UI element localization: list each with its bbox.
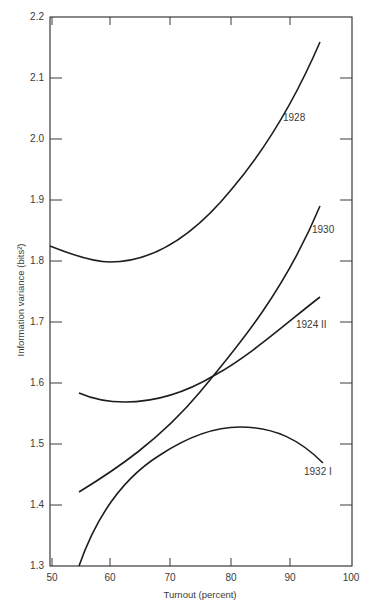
y-tick-1.5: 1.5 <box>30 438 44 449</box>
series-1932-i-line <box>79 427 323 566</box>
y-tick-1.7: 1.7 <box>30 316 44 327</box>
y-axis-title: Information variance (bits²) <box>15 244 26 357</box>
series-label-1932-i: 1932 I <box>304 466 332 477</box>
x-tick-labels: 50 60 70 80 90 100 <box>46 572 359 583</box>
x-tick-70: 70 <box>164 572 176 583</box>
y-tick-1.3: 1.3 <box>30 560 44 571</box>
y-tick-1.4: 1.4 <box>30 499 44 510</box>
x-tick-90: 90 <box>284 572 296 583</box>
y-axis-ticks <box>50 78 352 505</box>
y-tick-1.9: 1.9 <box>30 194 44 205</box>
y-tick-1.6: 1.6 <box>30 377 44 388</box>
line-chart: 1.3 1.4 1.5 1.6 1.7 1.8 1.9 2.0 2.1 2.2 … <box>0 0 373 610</box>
series-label-1924-ii: 1924 II <box>296 319 327 330</box>
y-tick-1.8: 1.8 <box>30 255 44 266</box>
x-tick-50: 50 <box>46 572 58 583</box>
series-label-1930: 1930 <box>312 224 335 235</box>
series-1930-line <box>79 206 320 492</box>
x-tick-80: 80 <box>225 572 237 583</box>
y-tick-2.0: 2.0 <box>30 133 44 144</box>
series-label-1928: 1928 <box>283 112 306 123</box>
y-tick-2.1: 2.1 <box>30 72 44 83</box>
series-1928-line <box>50 42 320 262</box>
x-tick-60: 60 <box>104 572 116 583</box>
plot-frame <box>50 17 352 566</box>
x-tick-100: 100 <box>343 572 360 583</box>
x-axis-ticks <box>52 17 290 566</box>
x-axis-title: Turnout (percent) <box>163 589 236 600</box>
y-tick-labels: 1.3 1.4 1.5 1.6 1.7 1.8 1.9 2.0 2.1 2.2 <box>30 11 44 571</box>
y-tick-2.2: 2.2 <box>30 11 44 22</box>
series-1924-ii-line <box>79 297 320 402</box>
